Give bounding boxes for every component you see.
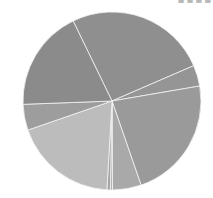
cropped-header-text: · · · ■ ■ ■ ■ [165,0,211,4]
pie-chart-svg [0,0,213,198]
pie-chart: · · · ■ ■ ■ ■ [0,0,213,198]
